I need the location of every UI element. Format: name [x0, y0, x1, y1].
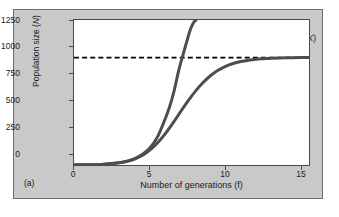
chart-svg [74, 20, 309, 165]
panel-label: (a) [24, 178, 34, 188]
x-tick-label-0: 0 [63, 170, 83, 179]
y-axis-title-close: ) [31, 15, 41, 18]
x-tick-label-15: 15 [291, 170, 311, 179]
x-tick-label-10: 10 [215, 170, 235, 179]
y-tick-label-0: 0 [15, 150, 20, 159]
x-tick-mark-10 [225, 166, 226, 170]
y-tick-label-1250: 1250 [1, 16, 20, 25]
y-tick-label-1000: 1000 [1, 42, 20, 51]
plot-area [73, 19, 310, 166]
y-axis-title-symbol: N [31, 18, 41, 24]
y-axis-title: Population size (N) [31, 0, 41, 111]
y-tick-label-750: 750 [6, 69, 20, 78]
x-tick-label-5: 5 [139, 170, 159, 179]
figure-container: Population size (N) 1250 1000 750 500 25… [0, 0, 339, 217]
x-tick-mark-0 [73, 166, 74, 170]
logistic-growth-curve [74, 58, 309, 165]
exponential-growth-curve [74, 20, 196, 165]
y-tick-label-250: 250 [6, 123, 20, 132]
y-tick-label-500: 500 [6, 96, 20, 105]
figure-panel: Population size (N) 1250 1000 750 500 25… [13, 9, 323, 199]
annotation-paren-close: ) [313, 33, 316, 43]
x-axis-title: Number of generations (f) [73, 180, 310, 190]
x-tick-mark-5 [149, 166, 150, 170]
y-axis-title-text: Population size ( [31, 24, 41, 87]
x-tick-mark-15 [301, 166, 302, 170]
